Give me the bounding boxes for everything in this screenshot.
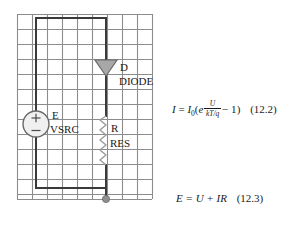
grid-lines	[17, 14, 153, 200]
voltage-source-label-secondary: VSRC	[50, 123, 79, 135]
circuit-wires	[36, 18, 106, 199]
equation-number-12-2: (12.2)	[250, 103, 277, 115]
eq-diode-close-paren: )	[237, 103, 241, 115]
eq-diode-minus-one: − 1	[222, 103, 237, 115]
eq-kvl-text: E = U + IR	[176, 192, 227, 204]
eq-diode-exponent: UkT/q	[203, 100, 221, 118]
equation-number-12-3: (12.3)	[237, 192, 264, 204]
voltage-source-label-primary: E	[52, 109, 59, 121]
node-dot-icon	[102, 195, 109, 202]
figure-canvas: E VSRC D DIODE R RES I = I0(eUkT/q− 1) (…	[0, 0, 289, 227]
equation-kvl: E = U + IR (12.3)	[176, 192, 263, 204]
resistor-label-secondary: RES	[110, 137, 130, 149]
eq-diode-exponent-numerator: U	[204, 100, 221, 108]
circuit-schematic: E VSRC D DIODE R RES	[0, 0, 165, 227]
voltage-source-icon	[23, 111, 49, 137]
eq-diode-exponent-fraction: UkT/q	[204, 100, 221, 118]
eq-diode-lhs: I	[172, 103, 176, 115]
diode-icon	[95, 60, 117, 76]
resistor-label-primary: R	[111, 122, 119, 134]
diode-label-primary: D	[120, 61, 128, 73]
eq-diode-exponent-denominator: kT/q	[204, 110, 221, 118]
resistor-zigzag-icon	[100, 116, 106, 165]
equation-diode-current: I = I0(eUkT/q− 1) (12.2)	[172, 100, 277, 118]
diode-label-secondary: DIODE	[119, 75, 153, 87]
eq-diode-equals: =	[178, 103, 184, 115]
